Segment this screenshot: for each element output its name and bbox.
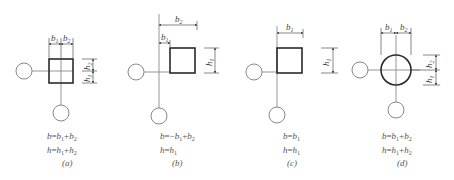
square-section (170, 48, 195, 73)
caption-c: (c) (287, 158, 297, 168)
dim-label-h2: h2 (424, 61, 435, 69)
left-node-circle (128, 64, 144, 80)
caption-b: (b) (172, 158, 183, 168)
formula-a-h: h=h1+h2 (47, 145, 77, 159)
panel-d: b1 b2 h2 h1 (352, 22, 440, 118)
panel-b: b2 b1 h1 (128, 14, 219, 124)
dim-label-b2: b2 (63, 33, 71, 44)
left-node-circle (352, 62, 368, 78)
formula-b-b: b=−b1+b2 (160, 131, 195, 145)
dim-label-b1: b1 (286, 22, 294, 33)
formula-b-h: h=h1 (160, 145, 195, 159)
square-section (277, 48, 302, 73)
formula-d-h: h=h1+h2 (382, 145, 412, 159)
formula-c: b=b1 h=h1 (283, 131, 300, 159)
caption-d: (d) (397, 158, 408, 168)
dim-label-b2: b2 (400, 22, 408, 33)
dim-label-b1: b1 (385, 22, 393, 33)
dim-label-b2: b2 (175, 14, 183, 25)
formula-a-b: b=b1+b2 (47, 131, 77, 145)
caption-a: (a) (62, 158, 73, 168)
dim-label-h1: h1 (321, 59, 332, 67)
left-node-circle (16, 63, 32, 79)
bottom-node-circle (388, 102, 404, 118)
dim-label-b1: b1 (161, 32, 169, 43)
panel-c: b1 h1 (246, 22, 338, 123)
left-node-circle (246, 64, 262, 80)
dim-label-h1: h1 (82, 75, 93, 83)
dim-label-h1: h1 (204, 59, 215, 67)
formula-a: b=b1+b2 h=h1+h2 (47, 131, 77, 159)
formula-d-b: b=b1+b2 (382, 131, 412, 145)
formula-b: b=−b1+b2 h=h1 (160, 131, 195, 159)
dim-label-h2: h2 (82, 63, 93, 71)
bottom-node-circle (53, 105, 69, 121)
bottom-node-circle (151, 108, 167, 124)
dim-label-b1: b1 (51, 33, 59, 44)
formula-c-h: h=h1 (283, 145, 300, 159)
dim-label-h1: h1 (424, 76, 435, 84)
formula-d: b=b1+b2 h=h1+h2 (382, 131, 412, 159)
panel-a: b1 b2 h2 h1 (16, 33, 97, 121)
bottom-node-circle (269, 107, 285, 123)
formula-c-b: b=b1 (283, 131, 300, 145)
